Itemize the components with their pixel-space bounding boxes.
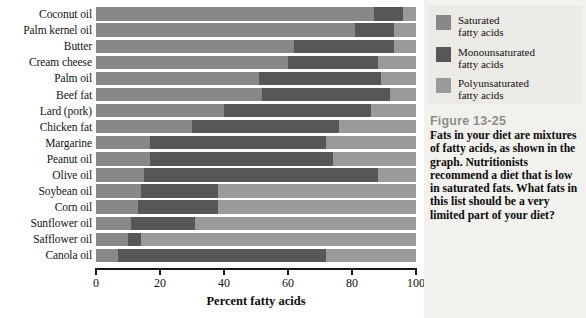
legend-swatch-monounsaturated [436, 47, 451, 62]
chart-row: Sunflower oil [0, 215, 420, 231]
category-label: Canola oil [0, 249, 96, 261]
chart-row: Lard (pork) [0, 103, 420, 119]
stacked-bar [96, 40, 416, 53]
category-label: Margarine [0, 137, 96, 149]
bar-segment-polyunsaturated [371, 104, 416, 117]
category-label: Beef fat [0, 89, 96, 101]
bar-segment-saturated [96, 88, 262, 101]
legend-label: Monounsaturated fatty acids [458, 46, 535, 70]
category-label: Olive oil [0, 169, 96, 181]
bar-segment-polyunsaturated [339, 120, 416, 133]
category-label: Chicken fat [0, 121, 96, 133]
category-label: Soybean oil [0, 185, 96, 197]
stacked-bar [96, 249, 416, 262]
category-label: Corn oil [0, 201, 96, 213]
category-label: Coconut oil [0, 8, 96, 20]
chart-row: Olive oil [0, 167, 420, 183]
caption-block: Figure 13-25 Fats in your diet are mixtu… [430, 114, 582, 222]
caption-text: Fats in your diet are mixtures of fatty … [430, 129, 582, 222]
side-panel: Saturated fatty acidsMonounsaturated fat… [424, 0, 586, 318]
stacked-bar [96, 136, 416, 149]
chart-row: Butter [0, 38, 420, 54]
x-axis-title: Percent fatty acids [96, 294, 416, 309]
category-label: Safflower oil [0, 233, 96, 245]
axis-tick-label: 60 [282, 276, 294, 291]
x-axis-line [96, 268, 416, 270]
axis-tick-label: 80 [346, 276, 358, 291]
category-label: Peanut oil [0, 153, 96, 165]
chart-row: Safflower oil [0, 231, 420, 247]
stacked-bar [96, 56, 416, 69]
axis-tick [415, 268, 417, 275]
axis-tick-label: 100 [407, 276, 425, 291]
legend-item: Polyunsaturated fatty acids [436, 77, 529, 101]
bar-segment-saturated [96, 7, 374, 20]
category-label: Butter [0, 40, 96, 52]
bar-segment-saturated [96, 23, 355, 36]
bar-segment-monounsaturated [118, 249, 326, 262]
category-label: Lard (pork) [0, 105, 96, 117]
chart-row: Peanut oil [0, 151, 420, 167]
stacked-bar [96, 120, 416, 133]
bar-segment-saturated [96, 184, 141, 197]
stacked-bar [96, 72, 416, 85]
chart-row: Palm oil [0, 70, 420, 86]
legend-label: Polyunsaturated fatty acids [458, 77, 529, 101]
chart-row: Cream cheese [0, 54, 420, 70]
bar-segment-monounsaturated [141, 184, 218, 197]
axis-tick-label: 20 [154, 276, 166, 291]
bar-segment-polyunsaturated [218, 184, 416, 197]
chart-row: Margarine [0, 135, 420, 151]
bar-segment-saturated [96, 249, 118, 262]
bar-segment-polyunsaturated [381, 72, 416, 85]
chart-row: Palm kernel oil [0, 22, 420, 38]
category-label: Palm oil [0, 72, 96, 84]
bar-segment-saturated [96, 168, 144, 181]
axis-tick [351, 268, 353, 275]
bar-segment-saturated [96, 152, 150, 165]
stacked-bar [96, 7, 416, 20]
stacked-bar [96, 200, 416, 213]
bar-segment-polyunsaturated [218, 200, 416, 213]
bar-segment-monounsaturated [294, 40, 393, 53]
bar-segment-monounsaturated [288, 56, 378, 69]
chart-panel: Coconut oilPalm kernel oilButterCream ch… [0, 0, 424, 318]
axis-tick-label: 40 [218, 276, 230, 291]
bar-segment-saturated [96, 120, 192, 133]
bar-segment-monounsaturated [374, 7, 403, 20]
bar-segment-monounsaturated [262, 88, 390, 101]
stacked-bar [96, 23, 416, 36]
stacked-bar [96, 233, 416, 246]
bar-segment-monounsaturated [355, 23, 393, 36]
bar-segment-monounsaturated [131, 217, 195, 230]
bar-segment-saturated [96, 200, 138, 213]
axis-tick [223, 268, 225, 275]
category-label: Cream cheese [0, 56, 96, 68]
bar-segment-polyunsaturated [394, 23, 416, 36]
category-label: Sunflower oil [0, 217, 96, 229]
bar-segment-polyunsaturated [326, 249, 416, 262]
bar-segment-monounsaturated [224, 104, 371, 117]
bar-segment-polyunsaturated [378, 168, 416, 181]
bar-segment-monounsaturated [138, 200, 218, 213]
chart-row: Coconut oil [0, 6, 420, 22]
bar-segment-polyunsaturated [390, 88, 416, 101]
axis-tick [159, 268, 161, 275]
legend-swatch-saturated [436, 15, 451, 30]
stacked-bar [96, 88, 416, 101]
bar-segment-saturated [96, 56, 288, 69]
stacked-bar [96, 184, 416, 197]
axis-tick-label: 0 [93, 276, 99, 291]
legend-item: Saturated fatty acids [436, 14, 504, 38]
bar-segment-polyunsaturated [195, 217, 416, 230]
bar-segment-saturated [96, 72, 259, 85]
bar-segment-monounsaturated [128, 233, 141, 246]
axis-tick [95, 268, 97, 275]
bar-segment-saturated [96, 40, 294, 53]
chart-legend: Saturated fatty acidsMonounsaturated fat… [428, 6, 582, 104]
bar-segment-polyunsaturated [378, 56, 416, 69]
bar-segment-saturated [96, 136, 150, 149]
chart-row: Canola oil [0, 247, 420, 263]
chart-row: Chicken fat [0, 119, 420, 135]
bar-segment-polyunsaturated [326, 136, 416, 149]
